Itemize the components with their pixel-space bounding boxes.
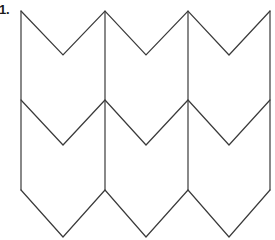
zigzag-row-top: [21, 11, 270, 55]
zigzag-rows-group: [21, 11, 270, 237]
zigzag-row-bottom: [21, 190, 270, 237]
figure-number-label: 1.: [0, 3, 9, 16]
figure-container: 1.: [0, 0, 275, 240]
zigzag-row-middle: [21, 100, 270, 145]
vertical-connectors-group: [21, 11, 270, 190]
chevron-tessellation-diagram: [0, 0, 275, 240]
